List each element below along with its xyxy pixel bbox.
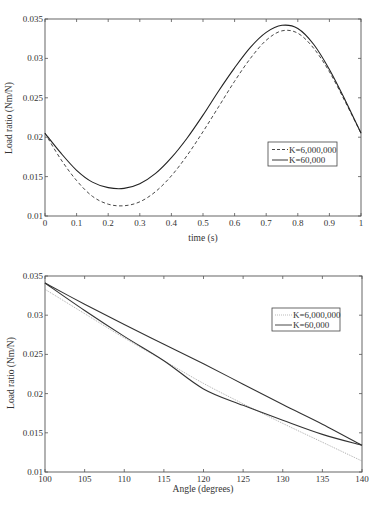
series-line [45, 283, 362, 445]
y-tick-label: 0.03 [27, 53, 43, 63]
x-tick-label: 0.5 [197, 218, 209, 228]
x-tick-label: 1 [359, 218, 364, 228]
legend-label-k60000: K=60,000 [289, 155, 326, 165]
legend: K=6,000,000 K=60,000 [272, 308, 341, 331]
y-axis-label: Load ratio (Nm/N) [4, 82, 15, 154]
plot-area: 00.10.20.30.40.50.60.70.80.910.010.0150.… [23, 14, 364, 228]
y-tick-label: 0.035 [23, 271, 44, 281]
y-tick-label: 0.01 [27, 211, 43, 221]
y-tick-label: 0.035 [23, 14, 44, 24]
legend: K=6,000,000 K=60,000 [268, 142, 337, 166]
x-tick-label: 135 [316, 474, 330, 484]
y-tick-label: 0.025 [23, 93, 44, 103]
y-tick-label: 0.03 [27, 310, 43, 320]
load-ratio-vs-angle-chart: 1001051101151201251301351400.010.0150.02… [0, 255, 381, 509]
y-tick-label: 0.02 [27, 389, 43, 399]
x-tick-label: 110 [118, 474, 132, 484]
legend-label-k6000000: K=6,000,000 [293, 310, 341, 320]
y-tick-label: 0.01 [27, 467, 43, 477]
series-line [45, 30, 361, 206]
x-tick-label: 0.6 [229, 218, 241, 228]
x-tick-label: 125 [236, 474, 250, 484]
x-axis-label: Angle (degrees) [173, 484, 234, 495]
chart-bottom-svg: 1001051101151201251301351400.010.0150.02… [0, 255, 381, 509]
y-tick-label: 0.015 [23, 428, 44, 438]
x-tick-label: 0.3 [134, 218, 146, 228]
legend-label-k6000000: K=6,000,000 [289, 145, 337, 155]
x-tick-label: 0.9 [324, 218, 336, 228]
x-tick-label: 0.7 [261, 218, 273, 228]
y-axis-label: Load ratio (Nm/N) [6, 337, 17, 409]
x-tick-label: 120 [197, 474, 211, 484]
legend-label-k60000: K=60,000 [293, 320, 330, 330]
x-tick-label: 140 [355, 474, 369, 484]
x-tick-label: 0.1 [71, 218, 82, 228]
x-tick-label: 0.8 [292, 218, 304, 228]
x-tick-label: 105 [78, 474, 92, 484]
x-tick-label: 0.4 [166, 218, 178, 228]
y-tick-label: 0.015 [23, 172, 44, 182]
chart-top-svg: 00.10.20.30.40.50.60.70.80.910.010.0150.… [0, 0, 381, 250]
load-ratio-vs-time-chart: 00.10.20.30.40.50.60.70.80.910.010.0150.… [0, 0, 381, 250]
x-tick-label: 0 [43, 218, 48, 228]
plot-area: 1001051101151201251301351400.010.0150.02… [23, 271, 370, 484]
y-tick-label: 0.025 [23, 349, 44, 359]
y-tick-label: 0.02 [27, 132, 43, 142]
x-axis-label: time (s) [188, 233, 217, 244]
x-tick-label: 130 [276, 474, 290, 484]
x-tick-label: 115 [157, 474, 171, 484]
x-tick-label: 0.2 [103, 218, 114, 228]
